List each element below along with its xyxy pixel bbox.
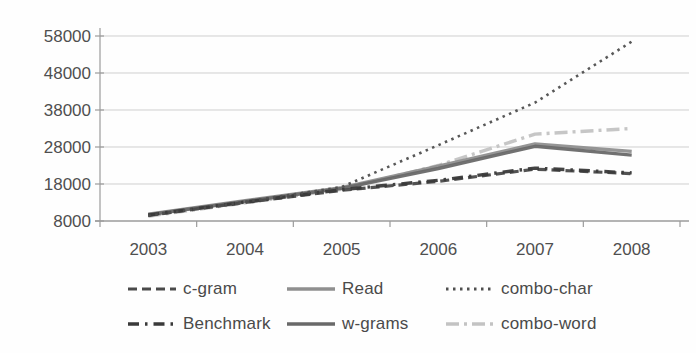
y-axis-tick-label: 48000 [44,64,91,83]
legend-label: combo-char [501,279,593,299]
legend-item-Read: Read [285,278,444,299]
y-axis-tick-label: 58000 [44,27,91,46]
x-axis-tick-label: 2004 [226,240,264,259]
legend-marker-Benchmark [126,318,178,330]
legend-item-c-gram: c-gram [126,278,285,299]
legend-label: combo-word [501,314,597,334]
legend-marker-combo-char [444,283,496,295]
x-axis-tick-label: 2007 [516,240,554,259]
x-axis-tick-label: 2003 [129,240,167,259]
x-axis-tick-label: 2006 [419,240,457,259]
line-chart-figure: 8000180002800038000480005800020032004200… [0,0,696,353]
chart-legend: c-gramReadcombo-charBenchmarkw-gramscomb… [126,278,634,334]
x-axis-tick-label: 2005 [323,240,361,259]
legend-item-combo-word: combo-word [444,313,634,334]
series-line-combo-char [148,42,631,216]
y-axis-tick-label: 28000 [44,138,91,157]
legend-item-combo-char: combo-char [444,278,634,299]
legend-marker-w-grams [285,318,337,330]
legend-marker-Read [285,283,337,295]
legend-marker-c-gram [126,283,178,295]
chart-canvas: 8000180002800038000480005800020032004200… [0,0,696,266]
series-line-Benchmark [148,168,631,215]
legend-label: Read [342,279,383,299]
legend-label: Benchmark [183,314,271,334]
legend-item-Benchmark: Benchmark [126,313,285,334]
x-axis-tick-label: 2008 [613,240,651,259]
legend-item-w-grams: w-grams [285,313,444,334]
legend-marker-combo-word [444,318,496,330]
y-axis-tick-label: 18000 [44,175,91,194]
y-axis-tick-label: 38000 [44,101,91,120]
y-axis-tick-label: 8000 [53,212,91,231]
legend-label: c-gram [183,279,237,299]
legend-label: w-grams [342,314,409,334]
